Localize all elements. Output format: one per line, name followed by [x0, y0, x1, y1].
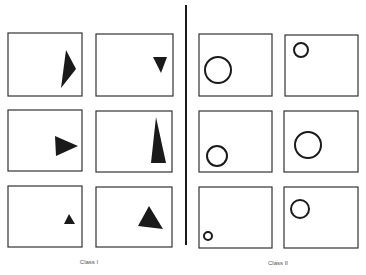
triangle-shape: [61, 50, 76, 88]
circle-shape: [204, 232, 212, 240]
classification-figure: [0, 0, 366, 275]
class-2-panel: [284, 187, 358, 248]
circle-shape: [207, 146, 227, 166]
class-2-panels: [199, 34, 358, 248]
triangle-shape: [64, 214, 75, 224]
class-2-panel: [199, 34, 272, 96]
triangle-shape: [153, 57, 167, 73]
class-1-label: Class I: [80, 259, 98, 265]
class-2-label: Class II: [268, 260, 288, 266]
triangle-shape: [55, 136, 78, 156]
panel-frame: [96, 187, 172, 247]
circle-shape: [295, 132, 321, 158]
panel-frame: [199, 34, 272, 96]
circle-shape: [294, 43, 308, 57]
class-1-panel: [8, 110, 82, 171]
circle-shape: [205, 57, 231, 83]
class-2-panel: [199, 111, 272, 172]
panel-frame: [8, 186, 82, 247]
class-1-panel: [8, 33, 82, 96]
class-2-panel: [199, 187, 272, 248]
circle-shape: [291, 200, 309, 218]
class-2-panel: [285, 35, 358, 96]
class-1-panel: [96, 34, 173, 96]
class-1-panels: [8, 33, 173, 247]
class-1-panel: [8, 186, 82, 247]
class-2-panel: [284, 111, 358, 172]
triangle-shape: [138, 206, 163, 229]
panel-frame: [8, 110, 82, 171]
class-1-panel: [96, 111, 172, 172]
triangle-shape: [151, 117, 166, 163]
class-1-panel: [96, 187, 172, 247]
